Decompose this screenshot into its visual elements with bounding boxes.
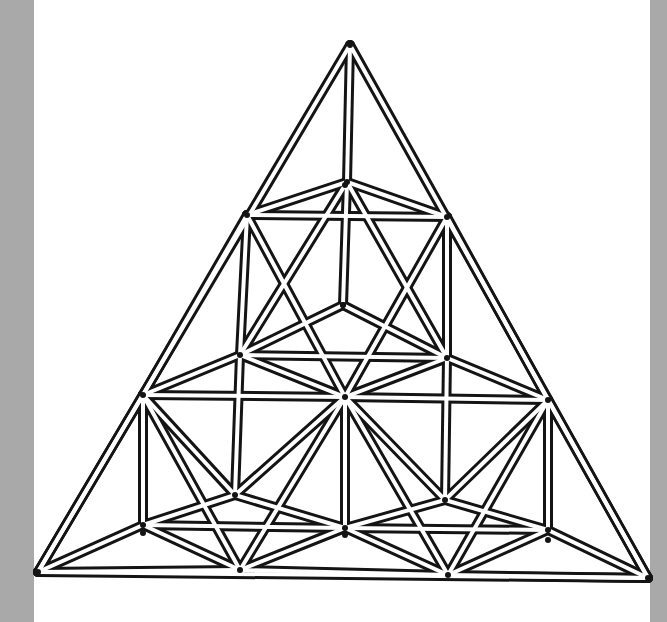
truss-rod-r1-m2 [345,217,447,397]
rod-hollows [38,45,648,578]
truss-node-fr3 [545,527,551,533]
truss-node-m2 [342,394,348,400]
truss-node-br2 [444,355,450,361]
truss-node-r1 [444,214,450,220]
truss-node-fl3 [140,522,146,528]
truss-node-l1 [244,212,250,218]
truss-node-r2 [545,397,551,403]
truss-node-r3 [645,575,651,581]
truss-rod-l2-m2 [143,395,345,397]
truss-node-cr3 [442,497,448,503]
truss-node-m3a [237,567,243,573]
truss-node-br3 [545,537,551,543]
truss-rod-br2-cr3 [445,358,447,500]
truss-diagram [0,0,667,622]
truss-node-bm3 [342,532,348,538]
truss-node-bc3 [342,525,348,531]
truss-node-l3 [35,569,41,575]
truss-node-m3b [445,572,451,578]
truss-node-c2 [340,302,346,308]
truss-rod-cl3-fl3 [143,495,235,525]
truss-node-t2 [342,182,348,188]
truss-node-cl3 [232,492,238,498]
truss-node-bl2 [237,352,243,358]
truss-node-apex [347,42,353,48]
truss-rod-r1-r2 [447,217,548,400]
truss-rod-l3-m3a [38,570,240,572]
truss-node-l2 [140,392,146,398]
truss-rod-l1-l2 [143,215,247,395]
truss-node-bl3 [140,530,146,536]
truss-rod-bc3-fr3 [345,528,548,530]
